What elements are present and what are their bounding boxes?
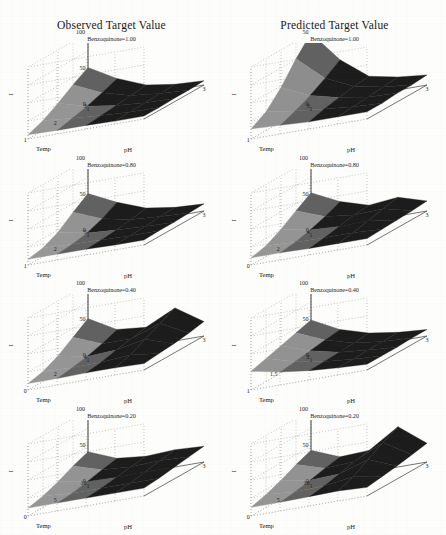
z-tick-label: 50 <box>302 316 308 322</box>
surface-svg <box>223 43 446 158</box>
z-tick-label: 100 <box>76 406 85 412</box>
y-tick-label: 1.5 <box>270 371 278 377</box>
x-tick-label: 2 <box>145 347 148 353</box>
x-tick-label: 2 <box>368 96 371 102</box>
z-axis-label: I <box>7 470 14 472</box>
surface-svg <box>0 43 223 158</box>
x-axis-label: pH <box>347 146 355 153</box>
y-tick-label: 1 <box>247 137 250 143</box>
x-tick-label: 1 <box>87 232 90 238</box>
x-tick-label: 2 <box>145 222 148 228</box>
y-tick-label: 10 <box>80 480 86 486</box>
surface-panel: Benzoquinone=0.80100500521123TemppHI <box>0 159 223 285</box>
x-axis-label: pH <box>124 523 132 530</box>
x-tick-label: 3 <box>203 337 206 343</box>
z-axis-label: I <box>230 470 237 472</box>
z-tick-label: 50 <box>79 316 85 322</box>
y-tick-label: 1 <box>24 263 27 269</box>
z-tick-label: 100 <box>76 280 85 286</box>
surface-panel: Benzoquinone=0.201005001050123TemppHI <box>223 410 446 535</box>
y-axis-label: Temp <box>36 271 51 278</box>
y-tick-label: 2 <box>54 120 57 126</box>
x-tick-label: 3 <box>426 463 429 469</box>
plot-area: 100500420123TemppHI <box>0 294 223 409</box>
x-tick-label: 1 <box>310 232 313 238</box>
y-tick-label: 10 <box>303 480 309 486</box>
y-tick-label: 2 <box>54 371 57 377</box>
surface-panel: Benzoquinone=0.80100500420123TemppHI <box>223 159 446 285</box>
x-axis-label: pH <box>124 397 132 404</box>
x-tick-label: 2 <box>368 473 371 479</box>
column-title-predicted: Predicted Target Value <box>223 19 446 31</box>
panel-subtitle: Benzoquinone=1.00 <box>0 35 223 42</box>
y-tick-label: 1 <box>24 137 27 143</box>
z-axis-label: I <box>7 219 14 221</box>
z-axis-label: I <box>230 344 237 346</box>
plot-area: 1005001050123TemppHI <box>223 420 446 535</box>
plot-area: 100500420123TemppHI <box>223 169 446 284</box>
x-tick-label: 2 <box>145 473 148 479</box>
z-tick-label: 50 <box>79 65 85 71</box>
z-tick-label: 100 <box>299 280 308 286</box>
y-axis-label: Temp <box>36 145 51 152</box>
z-tick-label: 50 <box>302 191 308 197</box>
surface-panel: Benzoquinone=0.4010050021.51123TemppHI <box>223 284 446 410</box>
figure-root: Observed Target Value Predicted Target V… <box>0 0 446 535</box>
x-tick-label: 1 <box>310 357 313 363</box>
y-tick-label: 0 <box>24 388 27 394</box>
z-tick-label: 50 <box>302 442 308 448</box>
column-titles: Observed Target Value Predicted Target V… <box>0 19 446 31</box>
surface-panel: Benzoquinone=0.40100500420123TemppHI <box>0 284 223 410</box>
surface-svg <box>0 420 223 535</box>
z-tick-label: 50 <box>79 442 85 448</box>
y-axis-label: Temp <box>259 396 274 403</box>
x-tick-label: 3 <box>203 212 206 218</box>
x-tick-label: 3 <box>203 86 206 92</box>
surface-svg <box>223 420 446 535</box>
z-tick-label: 100 <box>76 155 85 161</box>
y-tick-label: 5 <box>54 497 57 503</box>
surface-svg <box>223 169 446 284</box>
x-tick-label: 3 <box>203 463 206 469</box>
y-tick-label: 0 <box>24 514 27 520</box>
surface-facet <box>383 197 427 211</box>
x-tick-label: 3 <box>426 212 429 218</box>
column-title-observed: Observed Target Value <box>0 19 223 31</box>
plot-area: 10050021.51123TemppHI <box>223 294 446 409</box>
y-tick-label: 2 <box>277 246 280 252</box>
panel-subtitle: Benzoquinone=0.80 <box>223 161 446 168</box>
x-axis-label: pH <box>347 523 355 530</box>
y-axis-label: Temp <box>36 522 51 529</box>
y-axis-label: Temp <box>259 271 274 278</box>
surface-mesh <box>251 43 427 129</box>
y-tick-label: 2 <box>54 246 57 252</box>
panel-subtitle: Benzoquinone=0.20 <box>0 412 223 419</box>
plot-area: 1005001050123TemppHI <box>0 420 223 535</box>
z-tick-label: 50 <box>79 191 85 197</box>
surface-mesh <box>251 426 427 507</box>
x-axis-label: pH <box>347 272 355 279</box>
x-tick-label: 3 <box>426 337 429 343</box>
y-tick-label: 5 <box>277 497 280 503</box>
z-axis-label: I <box>7 344 14 346</box>
z-tick-label: 100 <box>76 29 85 35</box>
x-tick-label: 2 <box>368 222 371 228</box>
x-tick-label: 1 <box>310 106 313 112</box>
x-tick-label: 1 <box>87 106 90 112</box>
y-axis-label: Temp <box>36 396 51 403</box>
z-axis-label: I <box>230 219 237 221</box>
surface-panel: Benzoquinone=1.0050031123TemppHI <box>223 33 446 159</box>
panel-subtitle: Benzoquinone=0.40 <box>223 286 446 293</box>
surface-panel: Benzoquinone=1.00100500321123TemppHI <box>0 33 223 159</box>
surface-mesh <box>251 320 427 372</box>
panel-subtitle: Benzoquinone=0.80 <box>0 161 223 168</box>
panel-grid: Benzoquinone=1.00100500321123TemppHIBenz… <box>0 33 446 535</box>
x-axis-label: pH <box>124 146 132 153</box>
x-tick-label: 2 <box>145 96 148 102</box>
plot-area: 100500521123TemppHI <box>0 169 223 284</box>
z-tick-label: 100 <box>299 406 308 412</box>
x-axis-label: pH <box>124 272 132 279</box>
x-tick-label: 2 <box>368 347 371 353</box>
surface-panel: Benzoquinone=0.201005001050123TemppHI <box>0 410 223 535</box>
z-axis-label: I <box>7 93 14 95</box>
